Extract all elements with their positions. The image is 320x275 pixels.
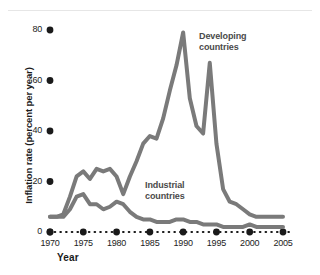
x-tick-label: 2005: [266, 238, 300, 248]
series-label-industrial-line2: countries: [145, 191, 185, 202]
y-tick-label: 0: [16, 226, 42, 236]
x-tick-label: 2000: [233, 238, 267, 248]
plot-area: [0, 0, 320, 275]
y-axis-tick-dots: [47, 27, 54, 236]
y-tick-dot: [47, 128, 54, 135]
x-tick-dot: [180, 229, 187, 236]
series-label-industrial: Industrial countries: [145, 180, 185, 202]
x-tick-label: 1980: [100, 238, 134, 248]
x-tick-label: 1995: [199, 238, 233, 248]
inflation-rate-chart: Inflation rate (percent per year) Year D…: [0, 0, 320, 275]
y-tick-dot: [47, 27, 54, 34]
x-tick-label: 1985: [133, 238, 167, 248]
y-tick-label: 40: [16, 125, 42, 135]
x-tick-label: 1990: [166, 238, 200, 248]
x-tick-label: 1970: [33, 238, 67, 248]
y-tick-label: 60: [16, 75, 42, 85]
y-tick-label: 80: [16, 24, 42, 34]
x-axis-tick-dots: [47, 229, 287, 236]
x-tick-dot: [246, 229, 253, 236]
y-tick-dot: [47, 178, 54, 185]
x-tick-dot: [47, 229, 54, 236]
x-tick-label: 1975: [66, 238, 100, 248]
x-tick-dot: [213, 229, 220, 236]
series-label-developing-line2: countries: [199, 42, 247, 53]
series-label-developing-line1: Developing: [199, 31, 247, 42]
x-tick-dot: [80, 229, 87, 236]
y-tick-label: 20: [16, 176, 42, 186]
y-tick-dot: [47, 77, 54, 84]
x-tick-dot: [280, 229, 287, 236]
x-tick-dot: [146, 229, 153, 236]
series-label-industrial-line1: Industrial: [145, 180, 185, 191]
series-label-developing: Developing countries: [199, 31, 247, 53]
x-tick-dot: [113, 229, 120, 236]
